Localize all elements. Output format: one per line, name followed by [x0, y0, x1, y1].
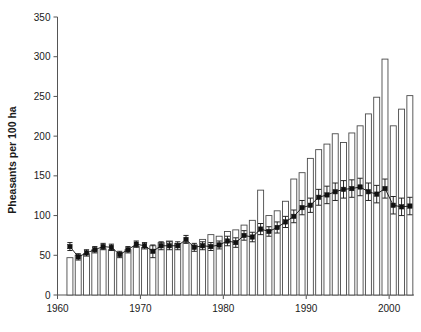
data-marker	[101, 244, 105, 248]
data-marker	[283, 220, 287, 224]
bar	[299, 173, 305, 295]
data-point	[92, 247, 97, 253]
x-axis: 19601970198019902000	[46, 295, 414, 314]
y-tick-label-350: 350	[34, 12, 51, 23]
x-tick-label-2000: 2000	[378, 303, 401, 314]
data-marker	[234, 240, 238, 244]
data-marker	[383, 186, 387, 190]
data-marker	[358, 185, 362, 189]
data-marker	[93, 248, 97, 252]
bar	[283, 201, 289, 295]
bar	[67, 258, 73, 295]
data-marker	[142, 244, 146, 248]
data-marker	[151, 249, 155, 253]
bar	[332, 134, 338, 295]
data-marker	[200, 244, 204, 248]
data-point	[134, 241, 139, 247]
data-marker	[84, 251, 88, 255]
bar	[133, 247, 139, 295]
data-marker	[68, 244, 72, 248]
data-marker	[176, 244, 180, 248]
data-marker	[275, 225, 279, 229]
data-marker	[316, 195, 320, 199]
x-tick-label-1960: 1960	[46, 303, 69, 314]
bar	[92, 250, 98, 295]
bar	[258, 190, 264, 295]
bar	[183, 243, 189, 295]
y-tick-label-250: 250	[34, 91, 51, 102]
bar	[349, 133, 355, 295]
data-marker	[300, 205, 304, 209]
bar	[407, 96, 413, 295]
data-marker	[333, 190, 337, 194]
data-marker	[292, 214, 296, 218]
bar	[117, 253, 123, 295]
bar	[357, 126, 363, 295]
bar	[175, 243, 181, 295]
bar	[307, 158, 313, 295]
chart-figure: Pheasants per 100 ha 0501001502002503003…	[0, 0, 421, 332]
data-point	[125, 247, 130, 253]
y-tick-label-300: 300	[34, 51, 51, 62]
x-tick-label-1990: 1990	[295, 303, 318, 314]
bar	[341, 143, 347, 296]
y-tick-label-50: 50	[39, 250, 51, 261]
bar	[84, 254, 90, 295]
bar	[324, 144, 330, 295]
x-tick-label-1980: 1980	[212, 303, 235, 314]
data-marker	[341, 187, 345, 191]
data-marker	[225, 239, 229, 243]
data-point	[100, 243, 105, 249]
data-marker	[374, 192, 378, 196]
data-marker	[217, 243, 221, 247]
data-point	[117, 251, 122, 257]
data-marker	[350, 186, 354, 190]
bar	[75, 255, 81, 295]
y-tick-label-200: 200	[34, 131, 51, 142]
bar	[125, 250, 131, 295]
data-marker	[184, 237, 188, 241]
bar	[108, 250, 114, 295]
y-tick-label-100: 100	[34, 210, 51, 221]
data-marker	[366, 190, 370, 194]
data-marker	[117, 252, 121, 256]
bar	[158, 243, 164, 295]
x-tick-label-1970: 1970	[129, 303, 152, 314]
data-marker	[325, 193, 329, 197]
data-marker	[126, 248, 130, 252]
pheasant-density-chart: Pheasants per 100 ha 0501001502002503003…	[0, 0, 421, 332]
data-marker	[267, 229, 271, 233]
data-marker	[192, 245, 196, 249]
data-marker	[109, 245, 113, 249]
data-marker	[242, 233, 246, 237]
data-marker	[308, 203, 312, 207]
bar-series	[67, 59, 413, 295]
bar	[382, 59, 388, 295]
bar	[249, 220, 255, 295]
data-marker	[250, 235, 254, 239]
y-tick-label-0: 0	[45, 290, 51, 301]
data-point	[76, 254, 81, 260]
data-marker	[399, 205, 403, 209]
data-marker	[159, 244, 163, 248]
bar	[365, 114, 371, 295]
data-marker	[209, 244, 213, 248]
data-point	[109, 244, 114, 250]
data-marker	[167, 244, 171, 248]
y-axis-label: Pheasants per 100 ha	[6, 106, 18, 214]
bar	[100, 249, 106, 295]
data-marker	[391, 203, 395, 207]
bar	[291, 179, 297, 295]
bar	[142, 247, 148, 295]
data-point	[142, 243, 147, 249]
y-tick-label-150: 150	[34, 170, 51, 181]
data-marker	[258, 227, 262, 231]
y-axis-label-text: Pheasants per 100 ha	[6, 106, 18, 214]
bar	[316, 150, 322, 295]
data-marker	[76, 255, 80, 259]
bar	[191, 245, 197, 295]
data-marker	[408, 204, 412, 208]
data-marker	[134, 242, 138, 246]
y-axis: 050100150200250300350	[34, 12, 58, 301]
data-point	[84, 250, 89, 256]
